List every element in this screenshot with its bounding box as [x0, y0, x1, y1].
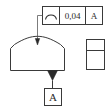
leader-line	[35, 16, 42, 46]
leader-arrowhead	[35, 39, 39, 46]
datum-triangle	[48, 71, 58, 81]
datum-label-letter: A	[49, 91, 57, 103]
datum-feature-symbol[interactable]: A	[45, 71, 62, 106]
feature-control-frame[interactable]: 0,04 A	[43, 7, 103, 25]
side-view-outline	[87, 40, 105, 70]
drawing-svg-surface: 0,04 A A	[0, 0, 110, 112]
technical-drawing-canvas: 0,04 A A	[0, 0, 110, 112]
side-view-rectangle	[87, 40, 105, 70]
tolerance-value: 0,04	[65, 11, 81, 21]
datum-reference-letter: A	[91, 11, 98, 21]
